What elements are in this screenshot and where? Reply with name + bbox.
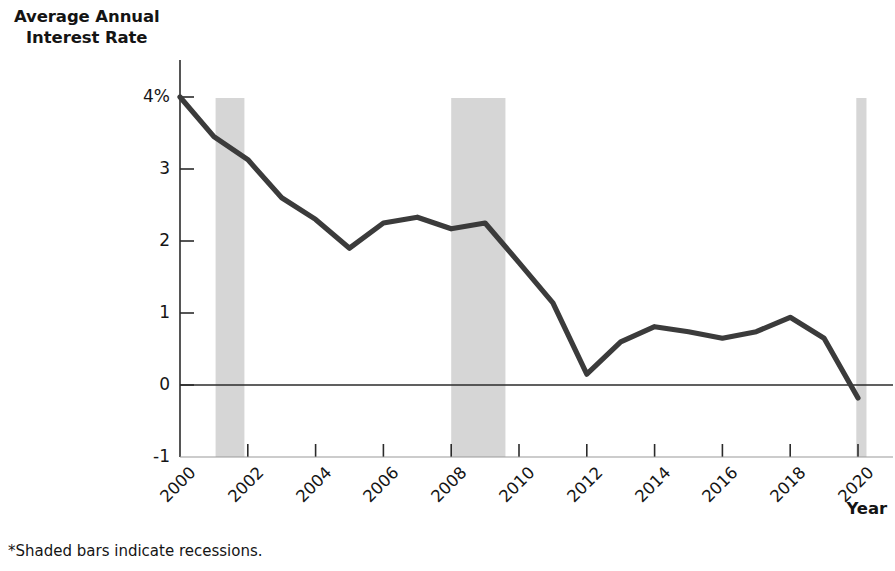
y-tick-label: 3 (110, 158, 170, 178)
y-tick-label: 0 (110, 374, 170, 394)
footnote-text: *Shaded bars indicate recessions. (8, 542, 263, 560)
chart-figure: Average AnnualInterest Rate Year *Shaded… (0, 0, 895, 571)
y-tick-label: -1 (110, 446, 170, 466)
y-tick-label: 4% (110, 86, 170, 106)
y-axis-title-line1: Average Annual (14, 7, 160, 26)
interest-rate-line (180, 97, 858, 398)
axis-ticks-group (180, 97, 858, 457)
recession-band (856, 98, 866, 457)
recession-bands-group (216, 98, 867, 457)
y-tick-label: 1 (110, 302, 170, 322)
y-axis-title: Average AnnualInterest Rate (14, 6, 160, 48)
recession-band (451, 98, 505, 457)
y-tick-label: 2 (110, 230, 170, 250)
y-axis-title-line2: Interest Rate (14, 27, 160, 48)
